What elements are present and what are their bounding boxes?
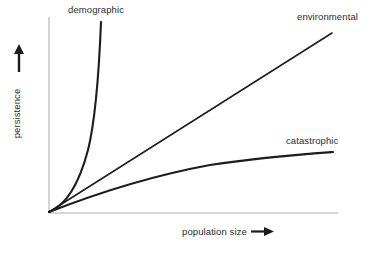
x-axis-arrow-icon <box>251 227 275 236</box>
y-axis-label: persistence <box>11 78 22 150</box>
y-axis-arrow-icon <box>13 44 25 72</box>
figure-container: demographic environmental catastrophic p… <box>0 0 384 253</box>
curve-label-demographic: demographic <box>68 4 124 15</box>
curve-label-catastrophic: catastrophic <box>286 135 338 146</box>
curve-catastrophic <box>49 152 333 212</box>
x-axis-label-text: population size <box>182 226 247 237</box>
curve-environmental <box>49 33 332 212</box>
x-axis-label: population size <box>182 226 275 237</box>
curve-label-environmental: environmental <box>297 11 358 22</box>
plot-area <box>0 0 384 253</box>
